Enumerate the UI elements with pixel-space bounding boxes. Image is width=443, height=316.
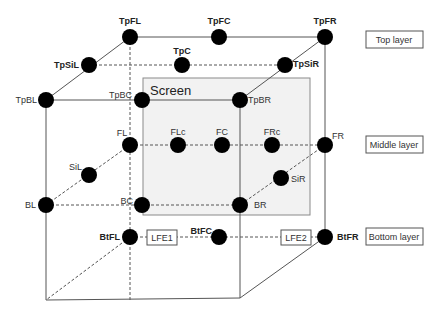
speaker-FRc	[264, 137, 280, 153]
label-FRc: FRc	[264, 127, 281, 137]
label-TpBC: TpBC	[109, 90, 133, 100]
label-BtFR: BtFR	[337, 232, 359, 242]
speaker-BR	[232, 197, 248, 213]
speaker-BC	[134, 197, 150, 213]
label-TpC: TpC	[173, 46, 191, 56]
speaker-TpFR	[317, 29, 333, 45]
label-BL: BL	[25, 200, 36, 210]
speaker-BtFC	[211, 229, 227, 245]
speaker-SiL	[81, 167, 97, 183]
speaker-TpBC	[134, 92, 150, 108]
speaker-TpFC	[211, 29, 227, 45]
label-SiR: SiR	[291, 174, 306, 184]
speaker-layout-diagram: Screen	[0, 0, 443, 316]
speaker-FR	[317, 137, 333, 153]
top-layer-label: Top layer	[376, 35, 413, 45]
label-TpFR: TpFR	[314, 16, 337, 26]
speaker-FLc	[170, 137, 186, 153]
speaker-FC	[214, 137, 230, 153]
label-FL: FL	[117, 128, 128, 138]
lfe1-label: LFE1	[151, 233, 173, 243]
label-TpSiR: TpSiR	[293, 59, 319, 69]
screen-label: Screen	[150, 83, 191, 98]
speaker-TpBL	[38, 92, 54, 108]
bottom-layer-label: Bottom layer	[369, 232, 420, 242]
middle-layer-label: Middle layer	[370, 140, 419, 150]
label-BC: BC	[120, 196, 133, 206]
speaker-BL	[38, 197, 54, 213]
lfe2-label: LFE2	[285, 233, 307, 243]
label-BtFC: BtFC	[191, 226, 213, 236]
label-FC: FC	[216, 127, 228, 137]
label-TpSiL: TpSiL	[54, 60, 79, 70]
label-TpFL: TpFL	[119, 16, 141, 26]
label-FLc: FLc	[170, 127, 186, 137]
label-TpFC: TpFC	[208, 16, 231, 26]
label-FR: FR	[332, 131, 344, 141]
label-SiL: SiL	[69, 162, 82, 172]
label-BtFL: BtFL	[100, 232, 121, 242]
label-TpBR: TpBR	[248, 95, 272, 105]
label-TpBL: TpBL	[15, 95, 37, 105]
speaker-TpC	[174, 57, 190, 73]
speaker-TpFL	[122, 29, 138, 45]
speaker-TpSiL	[81, 57, 97, 73]
speaker-BtFL	[122, 229, 138, 245]
speaker-SiR	[273, 170, 289, 186]
speaker-FL	[122, 137, 138, 153]
speaker-TpSiR	[277, 57, 293, 73]
speaker-TpBR	[232, 92, 248, 108]
speaker-BtFR	[317, 229, 333, 245]
label-BR: BR	[254, 200, 267, 210]
